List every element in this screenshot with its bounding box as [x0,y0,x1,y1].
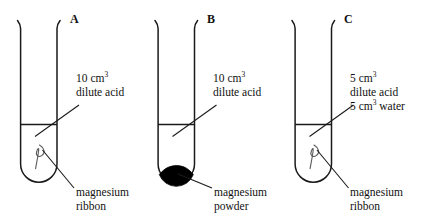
tube-a-solid-label: magnesium ribbon [76,185,129,213]
tube-c-contents-acid-volume-exponent: 3 [373,70,377,79]
tube-a-glass-outline [18,21,61,183]
tube-c-magnesium-ribbon [310,145,319,169]
tube-b-contents-volume: 10 cm [213,72,241,84]
tube-letter-b: B [207,13,215,25]
tube-c-contents-water-line: 5 cm3 water [350,99,405,113]
test-tube-a [18,21,80,189]
tube-c-solid-form: ribbon [350,199,403,213]
tube-c-contents-label: 5 cm3 dilute acid 5 cm3 water [350,71,405,113]
tube-b-solid-label: magnesium powder [214,185,267,213]
test-tube-c [292,21,354,189]
tube-a-contents-label: 10 cm3 dilute acid [76,71,124,99]
tube-c-solid-label: magnesium ribbon [350,185,403,213]
tube-b-solid-name: magnesium [214,185,267,199]
tube-a-contents-volume-exponent: 3 [104,70,108,79]
tube-a-contents-description: dilute acid [76,85,124,99]
tube-c-solid-name: magnesium [350,185,403,199]
tube-a-magnesium-ribbon [36,145,45,169]
tube-b-contents-description: dilute acid [213,85,261,99]
tube-c-contents-acid-description: dilute acid [350,85,405,99]
tube-a-contents-volume: 10 cm [76,72,104,84]
tube-letter-c: C [344,13,353,25]
tube-a-solid-leader-line [43,150,75,188]
test-tube-experiment-diagram: A B C 10 cm3 dilute acid magnesium ribbo… [0,0,435,224]
tube-b-magnesium-powder [159,166,193,187]
tube-b-glass-outline [155,21,198,183]
tube-a-solid-form: ribbon [76,199,129,213]
tube-c-contents-acid-volume: 5 cm [350,72,373,84]
tube-c-contents-water-description: water [376,100,404,112]
tube-letter-a: A [70,13,79,25]
tube-c-contents-acid-volume-line: 5 cm3 [350,71,405,85]
tube-a-contents-volume-line: 10 cm3 [76,71,124,85]
test-tube-b [155,21,217,189]
tube-a-solid-name: magnesium [76,185,129,199]
tube-b-contents-volume-exponent: 3 [241,70,245,79]
tube-b-contents-volume-line: 10 cm3 [213,71,261,85]
tube-b-contents-label: 10 cm3 dilute acid [213,71,261,99]
tube-c-contents-water-volume: 5 cm [350,100,373,112]
tube-b-solid-form: powder [214,199,267,213]
tube-c-solid-leader-line [317,150,349,188]
tube-c-glass-outline [292,21,335,183]
